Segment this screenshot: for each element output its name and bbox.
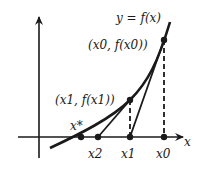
point-x2 <box>95 134 101 140</box>
point-root <box>78 134 84 140</box>
root-label: x* <box>70 119 83 133</box>
point-x0-axis <box>161 134 167 140</box>
tick-label-x0: x0 <box>156 147 171 161</box>
tangent-line-x0 <box>130 40 164 137</box>
curve-label: y = f(x) <box>115 11 161 25</box>
point-x1-axis <box>127 134 133 140</box>
tick-label-x2: x2 <box>88 147 102 161</box>
x-axis-label: x <box>184 135 191 149</box>
point-x0-f-x0 <box>161 37 167 43</box>
point-label-x1: (x1, f(x1)) <box>55 93 115 107</box>
newton-method-diagram: y = f(x) (x0, f(x0)) (x1, f(x1)) x* x2 x… <box>0 0 205 172</box>
tick-label-x1: x1 <box>121 147 135 161</box>
point-x1-f-x1 <box>127 97 133 103</box>
point-label-x0: (x0, f(x0)) <box>88 38 148 52</box>
